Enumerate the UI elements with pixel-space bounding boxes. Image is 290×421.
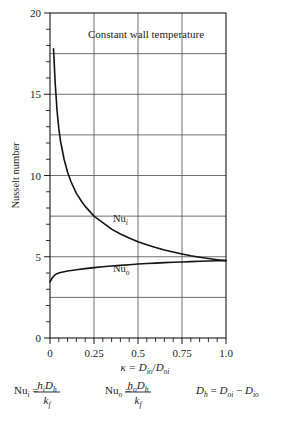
y-tick-label: 20 [30, 7, 42, 19]
formula-denominator: kf [135, 394, 143, 409]
y-tick-label: 15 [30, 88, 42, 100]
symbol-main: Nu [113, 263, 127, 274]
axis-ticks [44, 13, 226, 344]
y-tick-label: 0 [36, 332, 42, 344]
symbol-sub: i [126, 218, 128, 227]
x-axis-caption: κ = Dio/Doi [121, 361, 170, 376]
grid-lines [50, 13, 226, 338]
y-axis-title: Nusselt number [10, 142, 21, 209]
x-tick-label: 1.0 [219, 347, 233, 359]
plot-annotation: Constant wall temperature [88, 28, 204, 40]
formula-denominator: kf [44, 394, 52, 409]
curve-Nu_i [54, 49, 226, 261]
formula-numerator: hiDh [37, 379, 57, 394]
x-tick-label: 0.75 [172, 347, 192, 359]
symbol-sub: o [126, 268, 130, 277]
formula-Nu-o: Nuo =hoDhkf [105, 379, 151, 409]
x-tick-label: 0.5 [131, 347, 145, 359]
y-tick-label: 5 [36, 251, 42, 263]
formula-lhs: Nui = [14, 384, 39, 399]
x-tick-label: 0.25 [84, 347, 104, 359]
nusselt-number-figure: 0510152000.250.50.751.0Nusselt numberCon… [0, 0, 290, 421]
curve-label-inner: Nui [113, 213, 128, 227]
y-tick-label: 10 [30, 170, 42, 182]
formula-Nu-i: Nui =hiDhkf [14, 379, 60, 409]
symbol-main: Nu [113, 213, 127, 224]
formula-hydraulic-diameter: Dh = Doi − Dio [195, 384, 259, 399]
x-tick-label: 0 [47, 347, 53, 359]
nusselt-chart: 0510152000.250.50.751.0Nusselt numberCon… [0, 0, 290, 421]
